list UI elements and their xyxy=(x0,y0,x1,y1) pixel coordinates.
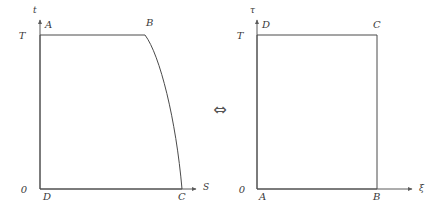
right-vertex-label-D: D xyxy=(261,19,270,30)
right-diagram: τ ξ T 0 D C B A xyxy=(237,5,425,202)
left-edge-BC-curve xyxy=(145,35,182,189)
right-vertex-label-A: A xyxy=(258,191,266,202)
left-origin-label: 0 xyxy=(21,184,28,195)
right-y-axis-label: τ xyxy=(250,5,256,15)
equivalence-double-arrow-icon: ⇔ xyxy=(213,100,226,119)
figure-canvas: t S T 0 A B C D ⇔ τ ξ T 0 xyxy=(0,0,440,210)
right-origin-label: 0 xyxy=(239,184,246,195)
left-vertex-label-A: A xyxy=(44,19,52,30)
left-diagram: t S T 0 A B C D xyxy=(19,5,210,202)
right-y-tick-T: T xyxy=(237,30,245,41)
right-vertex-label-B: B xyxy=(372,191,380,202)
left-y-tick-T: T xyxy=(19,30,27,41)
left-y-axis-label: t xyxy=(33,5,37,15)
right-vertex-label-C: C xyxy=(373,19,381,30)
figure-root: t S T 0 A B C D ⇔ τ ξ T 0 xyxy=(0,0,440,210)
left-vertex-label-D: D xyxy=(42,191,51,202)
right-x-axis-label: ξ xyxy=(419,183,425,193)
left-vertex-label-B: B xyxy=(145,17,153,28)
left-x-axis-label: S xyxy=(203,182,209,192)
left-vertex-label-C: C xyxy=(178,191,186,202)
